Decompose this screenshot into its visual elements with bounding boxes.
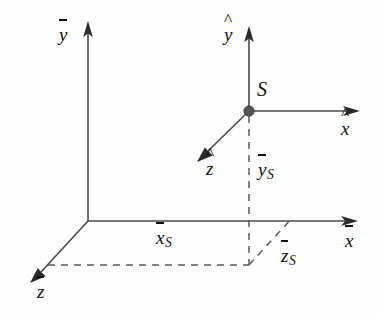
label-y-hat-text: y: [224, 25, 232, 44]
label-z-bar-s-subscript: S: [289, 253, 296, 268]
label-x-hat-text: x: [341, 119, 349, 138]
label-x-bar-s-text: x: [156, 228, 164, 247]
label-z-bar-s: zS: [281, 246, 296, 268]
label-z-hat-text: z: [206, 159, 213, 178]
label-y-bar-s-text: y: [258, 160, 266, 179]
label-x-bar-s-subscript: S: [165, 235, 172, 250]
label-point-s-text: S: [257, 79, 267, 99]
label-z-bar-s-text: z: [281, 246, 288, 265]
label-z-hat: z: [206, 159, 213, 178]
label-x-bar: x: [345, 231, 353, 250]
label-z-bar: z: [37, 282, 44, 301]
label-x-bar-text: x: [345, 231, 353, 250]
label-y-bar: y: [59, 25, 67, 44]
label-z-bar-text: z: [37, 282, 44, 301]
coordinate-axes-svg: [0, 0, 382, 314]
label-y-hat: y: [224, 25, 232, 44]
label-y-bar-text: y: [59, 25, 67, 44]
coordinate-diagram: y y S x z yS xS x zS z: [0, 0, 382, 314]
label-x-hat: x: [341, 119, 349, 138]
label-x-bar-s: xS: [156, 228, 172, 250]
label-y-bar-s: yS: [258, 160, 274, 182]
z-hat-axis-line: [208, 111, 249, 151]
point-s-marker: [244, 106, 254, 116]
label-y-bar-s-subscript: S: [267, 167, 274, 182]
label-point-s: S: [257, 79, 267, 99]
